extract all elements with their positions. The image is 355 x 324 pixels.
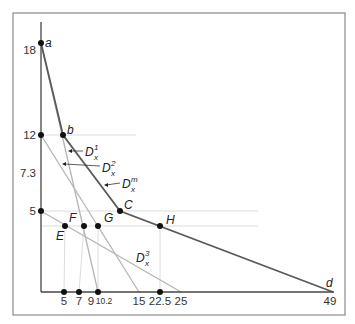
y-tick-18: 18: [23, 44, 36, 56]
y-tick-5: 5: [30, 205, 36, 217]
label-h: H: [166, 213, 175, 227]
point-h: [157, 223, 163, 229]
svg-text:D: D: [85, 145, 94, 159]
svg-text:D: D: [102, 161, 111, 175]
svg-text:x: x: [144, 259, 150, 268]
label-dm: D m x: [104, 175, 138, 194]
x-tick-25: 25: [175, 295, 188, 307]
x-tick-7: 7: [76, 295, 82, 307]
svg-text:m: m: [131, 175, 138, 184]
point-g: [95, 223, 101, 229]
label-g: G: [104, 211, 113, 225]
dropline-e: [64, 226, 65, 292]
arrowhead-icon: [62, 162, 66, 166]
x-tick-5: 5: [61, 295, 67, 307]
x-tick-15: 15: [133, 295, 146, 307]
point-y5: [38, 208, 44, 214]
svg-text:x: x: [93, 153, 99, 162]
y-tick-7-3: 7.3: [20, 167, 36, 179]
svg-text:x: x: [130, 185, 136, 194]
svg-text:2: 2: [110, 159, 116, 168]
x-tick-22-5: 22.5: [149, 295, 171, 307]
point-b: [60, 132, 66, 138]
x-tick-9: 9: [88, 295, 94, 307]
svg-text:x: x: [110, 169, 116, 178]
label-c: C: [124, 198, 133, 212]
y-tick-12: 12: [23, 129, 36, 141]
point-c: [117, 208, 123, 214]
label-a: a: [45, 36, 52, 50]
label-d3: D 3 x: [136, 249, 150, 268]
arrowhead-icon: [104, 183, 108, 187]
label-e: E: [56, 229, 65, 243]
svg-text:D: D: [122, 177, 131, 191]
market-demand-curve: [41, 43, 333, 292]
point-a: [38, 40, 44, 46]
x-tick-10-2: 10.2: [96, 296, 113, 306]
label-d: d: [326, 276, 333, 290]
point-f: [81, 223, 87, 229]
label-b: b: [67, 123, 74, 137]
label-f: F: [69, 211, 77, 225]
svg-text:3: 3: [145, 249, 150, 258]
leader-dm: [106, 183, 120, 185]
point-y12: [38, 132, 44, 138]
x-tick-49: 49: [324, 295, 337, 307]
demand-diagram: 18 12 7.3 5 5 7 9 10.2 15 22.5 25 49 a b…: [0, 0, 355, 324]
point-x10-2: [95, 289, 101, 295]
svg-text:D: D: [136, 251, 145, 265]
arrowhead-icon: [68, 149, 72, 153]
svg-text:1: 1: [94, 143, 98, 152]
label-d1: D 1 x: [68, 143, 99, 162]
